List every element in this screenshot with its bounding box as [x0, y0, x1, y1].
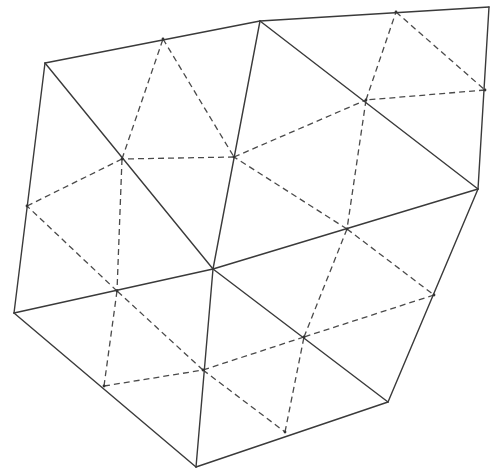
- solid-edge-BE: [213, 21, 260, 269]
- solid-edge-EG: [196, 269, 213, 467]
- midpoint-node-FG: [103, 385, 106, 388]
- midpoint-node-GH: [284, 431, 287, 434]
- dashed-edge-BE-BD: [234, 100, 366, 157]
- dashed-edge-FG-EG: [104, 370, 203, 386]
- solid-edge-EH: [213, 269, 388, 402]
- dashed-edge-EH-EG: [203, 337, 304, 370]
- mesh-nodes: [26, 11, 487, 434]
- midpoint-node-BC: [395, 11, 398, 14]
- dashed-edge-BD-ED: [347, 100, 366, 229]
- solid-edge-BD: [260, 21, 478, 189]
- solid-edge-FE: [14, 269, 213, 313]
- dashed-edge-AF-AE: [27, 159, 122, 206]
- dashed-edge-GH-EH: [285, 337, 304, 432]
- dashed-edge-BD-BC: [366, 12, 396, 100]
- solid-edge-CD: [478, 7, 489, 189]
- midpoint-node-AB: [162, 38, 165, 41]
- dashed-edge-AE-FE: [117, 159, 122, 291]
- solid-edge-FG: [14, 313, 196, 467]
- dashed-edge-ED-BE: [234, 157, 347, 229]
- midpoint-node-ED: [346, 228, 349, 231]
- refinement-dashed-edges: [27, 12, 485, 432]
- dashed-edge-FE-AF: [27, 206, 117, 291]
- triangulated-mesh-diagram: [0, 0, 498, 473]
- midpoint-node-FE: [116, 290, 119, 293]
- solid-edge-AF: [14, 63, 45, 313]
- dashed-edge-EH-ED: [304, 229, 347, 337]
- solid-edge-ED: [213, 189, 478, 269]
- dashed-edge-FE-FG: [104, 291, 117, 386]
- dashed-edge-AB-BE: [163, 39, 234, 157]
- dashed-edge-DH-EH: [304, 295, 434, 337]
- midpoint-node-BD: [365, 99, 368, 102]
- dashed-edge-CD-BD: [366, 90, 485, 100]
- midpoint-node-AF: [26, 205, 29, 208]
- coarse-solid-edges: [14, 7, 489, 467]
- dashed-edge-BE-AE: [122, 157, 234, 159]
- midpoint-node-EH: [303, 336, 306, 339]
- dashed-edge-BC-CD: [396, 12, 485, 90]
- solid-edge-AE: [45, 63, 213, 269]
- midpoint-node-AE: [121, 158, 124, 161]
- midpoint-node-EG: [202, 369, 205, 372]
- midpoint-node-CD: [484, 89, 487, 92]
- dashed-edge-ED-DH: [347, 229, 434, 295]
- solid-edge-BC: [260, 7, 489, 21]
- dashed-edge-EG-GH: [203, 370, 285, 432]
- midpoint-node-DH: [433, 294, 436, 297]
- solid-edge-AB: [45, 21, 260, 63]
- solid-edge-GH: [196, 402, 388, 467]
- midpoint-node-BE: [233, 156, 236, 159]
- dashed-edge-AE-AB: [122, 39, 163, 159]
- dashed-edge-EG-FE: [117, 291, 203, 370]
